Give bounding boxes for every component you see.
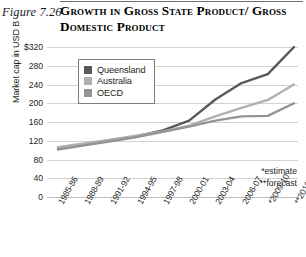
legend-swatch-icon <box>84 66 92 74</box>
y-axis-tick-label: 280 <box>29 62 43 70</box>
y-axis-tick-label: 80 <box>33 156 43 164</box>
legend-label: OECD <box>97 88 123 98</box>
chart-legend: QueenslandAustraliaOECD <box>78 59 155 104</box>
legend-item: OECD <box>84 87 146 99</box>
y-axis-tick-label: $320 <box>24 43 43 51</box>
header-divider <box>60 1 303 2</box>
y-axis-tick-label: 0 <box>38 193 43 201</box>
legend-swatch-icon <box>84 77 92 85</box>
y-axis-title: Market cap in USD B <box>11 21 21 103</box>
y-axis-tick-label: 200 <box>29 99 43 107</box>
figure-number: Figure 7.26 <box>2 5 62 20</box>
figure-container: Figure 7.26 Growth in Gross State Produc… <box>0 0 306 257</box>
y-axis-tick-label: 120 <box>29 137 43 145</box>
y-axis-tick-label: 240 <box>29 81 43 89</box>
y-axis-tick-label: 160 <box>29 118 43 126</box>
legend-item: Australia <box>84 76 146 88</box>
legend-label: Australia <box>97 76 132 86</box>
y-axis-tick-label: 40 <box>33 174 43 182</box>
figure-title: Growth in Gross State Product/ Gross Dom… <box>60 3 306 34</box>
figure-title-line-1: Growth in Gross State Product/ <box>60 3 248 18</box>
footnote-estimate: *estimate <box>261 166 297 176</box>
legend-swatch-icon <box>84 89 92 97</box>
legend-item: Queensland <box>84 64 146 76</box>
footnote-forecast: **forecast <box>260 178 297 188</box>
legend-label: Queensland <box>97 65 146 75</box>
